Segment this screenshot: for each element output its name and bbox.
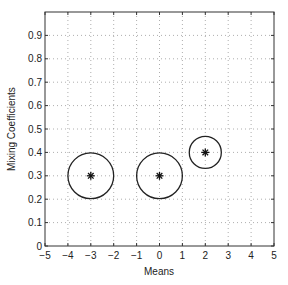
y-axis-ticks: 00.10.20.30.40.50.60.70.80.9: [28, 30, 274, 252]
grid-lines: [45, 12, 274, 246]
x-axis-ticks: −5−4−3−2−1012345: [39, 12, 277, 261]
x-tick-label: −1: [131, 250, 143, 261]
y-tick-label: 0.7: [28, 77, 42, 88]
x-tick-label: 1: [180, 250, 186, 261]
y-tick-label: 0.8: [28, 53, 42, 64]
x-tick-label: −3: [85, 250, 97, 261]
x-tick-label: −5: [39, 250, 51, 261]
x-tick-label: −2: [108, 250, 120, 261]
x-tick-label: 0: [157, 250, 163, 261]
y-tick-label: 0.2: [28, 194, 42, 205]
x-tick-label: 2: [203, 250, 209, 261]
y-tick-label: 0.5: [28, 124, 42, 135]
y-axis-label: Mixing Coefficients: [6, 87, 17, 171]
y-tick-label: 0.3: [28, 170, 42, 181]
data-points: [68, 136, 221, 198]
y-tick-label: 0: [36, 241, 42, 252]
x-tick-label: 4: [248, 250, 254, 261]
y-tick-label: 0.9: [28, 30, 42, 41]
y-tick-label: 0.6: [28, 100, 42, 111]
asterisk-marker: [156, 172, 164, 180]
asterisk-marker: [87, 172, 95, 180]
x-axis-label: Means: [144, 266, 174, 277]
x-tick-label: −4: [62, 250, 74, 261]
x-tick-label: 5: [271, 250, 277, 261]
x-tick-label: 3: [225, 250, 231, 261]
chart: −5−4−3−2−1012345 00.10.20.30.40.50.60.70…: [0, 0, 288, 285]
asterisk-marker: [201, 148, 209, 156]
y-tick-label: 0.4: [28, 147, 42, 158]
y-tick-label: 0.1: [28, 217, 42, 228]
